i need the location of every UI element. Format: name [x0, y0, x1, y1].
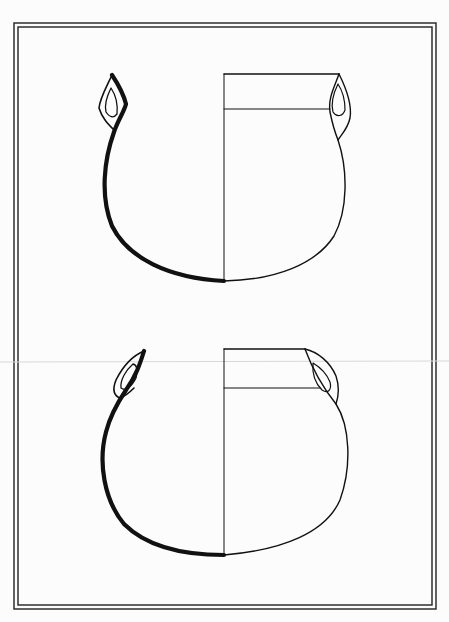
drawing-plate [0, 0, 449, 622]
double-frame [14, 23, 436, 609]
lower-jar [103, 349, 348, 555]
upper-jar [99, 74, 350, 281]
